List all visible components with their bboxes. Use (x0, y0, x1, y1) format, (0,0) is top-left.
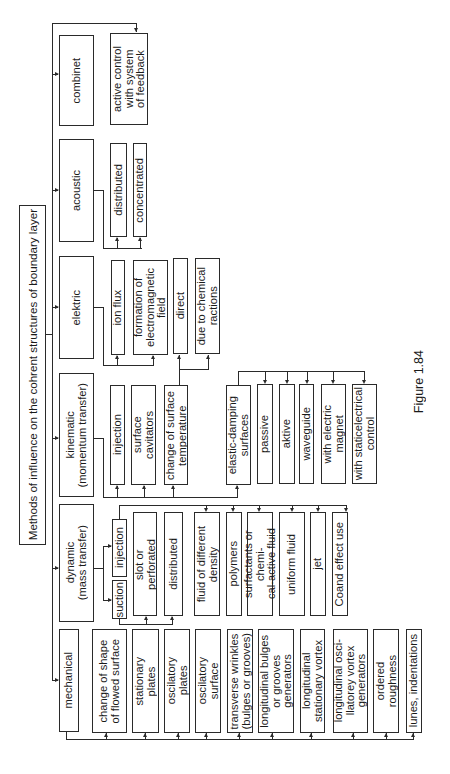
elektric-sub-direct: direct (173, 258, 188, 354)
connector (179, 355, 180, 386)
acoustic-child-distributed: distributed (110, 143, 127, 237)
arrow-icon (138, 237, 142, 241)
arrow-icon (316, 508, 320, 512)
injection-child-polymers: polymers (226, 512, 242, 616)
arrow-icon (305, 380, 309, 384)
dynamic-child-suction: suction (112, 580, 127, 619)
suction-child-distributed: distributed (164, 512, 183, 616)
arrow-icon (171, 485, 175, 489)
injection-child-uniform-fluid: uniform fluid (279, 512, 305, 616)
connector (239, 733, 240, 740)
arrow-icon (115, 237, 119, 241)
root-title: Methods of influence on the cohrent stru… (27, 209, 39, 540)
connector (311, 733, 312, 740)
arrow-icon (263, 380, 267, 384)
arrow-icon (177, 355, 181, 359)
arrow-icon (344, 508, 348, 512)
elektric-sub-chemical: due to chemical ractions (195, 258, 220, 354)
arrow-icon (55, 305, 59, 309)
kinematic-child-surface-temperature: change of surface temperature (164, 385, 188, 485)
arrow-icon (331, 380, 335, 384)
elastic-child-electric-magnet: with electric magnet (321, 384, 346, 484)
connector (206, 733, 207, 740)
arrow-icon (235, 485, 239, 489)
arrow-icon (290, 508, 294, 512)
category-mechanical: mechanical (59, 629, 79, 732)
arrow-icon (144, 616, 148, 620)
arrow-icon (134, 28, 138, 32)
connector (103, 546, 104, 600)
injection-child-surfactants: surfactants or chemi- cal-active fluid (247, 512, 273, 616)
arrow-icon (231, 508, 235, 512)
category-acoustic: acoustic (59, 139, 94, 242)
injection-child-jet: jet (310, 512, 326, 616)
connector (52, 585, 53, 681)
category-combinet: combinet (59, 35, 94, 126)
connector (238, 371, 365, 372)
acoustic-child-concentrated: concentrated (133, 143, 147, 237)
arrow-icon (206, 355, 210, 359)
category-dynamic: dynamic (mass transfer) (59, 504, 94, 622)
injection-child-density: fluid of different density (194, 512, 220, 616)
combinet-child-active-control: active control with system of feedback (110, 33, 148, 125)
injection-child-coand: Coand effect use (332, 512, 348, 616)
kinematic-child-injection: injection (110, 385, 125, 485)
arrow-icon (257, 508, 261, 512)
arrow-icon (55, 436, 59, 440)
elastic-child-waveguide: waveguide (299, 384, 314, 484)
connector (386, 733, 387, 740)
connector (103, 365, 154, 366)
connector (103, 497, 238, 498)
root-title-box: Methods of influence on the cohrent stru… (19, 205, 46, 545)
connector (238, 371, 239, 385)
mechanical-child-stationary-vortex: longitudinal stationary vortex (300, 629, 325, 733)
connector (103, 438, 104, 498)
arrow-icon (142, 485, 146, 489)
category-elektric: elektric (59, 256, 94, 359)
kinematic-child-cavitators: surface cavitators (131, 385, 156, 485)
elastic-child-staticelectrical: with staticelectrical control (352, 384, 377, 484)
connector (103, 307, 104, 366)
figure-caption: Figure 1.84 (412, 350, 426, 413)
elektric-child-ion-flux: ion flux (111, 260, 125, 355)
connector (103, 190, 104, 249)
arrow-icon (55, 72, 59, 76)
main-trunk (52, 23, 53, 585)
arrow-icon (115, 485, 119, 489)
mechanical-child-oscilatory-plates: oscilatory plates (164, 629, 190, 733)
connector (103, 248, 142, 249)
arrow-icon (170, 616, 174, 620)
mechanical-child-stationary-plates: stationary plates (132, 629, 159, 733)
mechanical-child-shape: change of shape of flowed surface (92, 629, 127, 733)
connector (179, 369, 209, 370)
connector (52, 23, 137, 24)
connector (353, 733, 354, 740)
mechanical-child-longitudinal-bulges: longitudinal bulges or grooves generator… (258, 629, 294, 733)
dynamic-child-injection: injection (112, 519, 127, 577)
arrow-icon (285, 380, 289, 384)
mechanical-child-lunes: lunes, indentations (406, 629, 422, 733)
elastic-child-passive: passive (257, 384, 273, 484)
arrow-icon (115, 355, 119, 359)
connector (413, 733, 414, 740)
connector (145, 733, 146, 740)
connector (106, 733, 107, 740)
arrow-icon (55, 566, 59, 570)
mechanical-child-ordered-roughness: ordered roughness (373, 629, 399, 733)
connector (272, 733, 273, 740)
mechanical-child-oscillatory-vortex: longitudinal osci- llatorey vortex gener… (333, 629, 368, 733)
arrow-icon (55, 678, 59, 682)
mechanical-child-oscilatory-surface: oscilatory surface (195, 629, 221, 733)
arrow-icon (204, 508, 208, 512)
connector (178, 733, 179, 740)
suction-child-slot: slot or perforated (133, 512, 157, 616)
kinematic-child-elastic-damping: elastic-damping surfaces (226, 385, 251, 485)
arrow-icon (362, 380, 366, 384)
elektric-child-electromagnetic: formation of electromagnetic field (133, 260, 168, 355)
arrow-icon (55, 188, 59, 192)
connector (119, 505, 120, 519)
elastic-child-aktive: aktive (279, 384, 295, 484)
arrow-icon (151, 355, 155, 359)
category-kinematic: kinematic (momentum transfer) (59, 373, 94, 497)
mechanical-child-transverse-wrinkles: transverse wrinkles (bulges or grooves) (227, 629, 253, 733)
